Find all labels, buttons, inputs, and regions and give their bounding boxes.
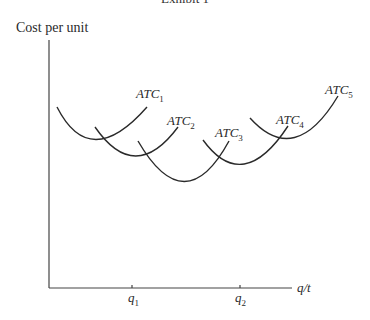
chart-canvas — [0, 0, 370, 320]
x-axis-label: q/t — [297, 280, 311, 296]
atc2-curve — [95, 127, 178, 156]
atc4-label: ATC4 — [276, 112, 304, 130]
atc5-label: ATC5 — [325, 82, 353, 100]
atc2-label: ATC2 — [167, 113, 195, 131]
atc3-label: ATC3 — [215, 125, 243, 143]
x-tick-label-q1: q1 — [128, 290, 139, 308]
atc3-curve — [138, 141, 229, 182]
x-tick-label-q2: q2 — [235, 290, 246, 308]
atc1-label: ATC1 — [136, 86, 164, 104]
atc1-curve — [57, 107, 147, 140]
